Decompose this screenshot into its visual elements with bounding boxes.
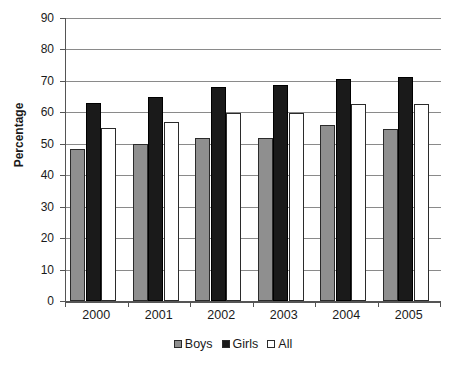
y-axis-tick-label: 50 <box>26 138 54 150</box>
bar-boys-2003 <box>258 138 273 301</box>
legend-swatch-icon <box>174 340 182 348</box>
bar-girls-2002 <box>211 87 226 301</box>
x-axis-tick <box>128 301 129 307</box>
x-axis-tick <box>378 301 379 307</box>
legend-label: Girls <box>233 337 259 351</box>
chart-legend: BoysGirlsAll <box>0 337 466 351</box>
bar-girls-2005 <box>398 77 413 301</box>
y-axis-tick-label: 90 <box>26 12 54 24</box>
y-axis-tick-label: 30 <box>26 201 54 213</box>
x-axis-tick-label: 2003 <box>249 308 319 322</box>
x-axis-tick-label: 2000 <box>61 308 131 322</box>
bar-boys-2004 <box>320 125 335 301</box>
bar-boys-2001 <box>133 144 148 301</box>
bar-boys-2002 <box>195 138 210 302</box>
x-axis-tick-label: 2001 <box>124 308 194 322</box>
bar-girls-2001 <box>148 97 163 301</box>
x-axis-tick <box>65 301 66 307</box>
bar-all-2001 <box>164 122 179 301</box>
x-axis-tick <box>440 301 441 307</box>
legend-item-boys: Boys <box>174 337 213 351</box>
y-axis-tick-label: 80 <box>26 43 54 55</box>
bar-all-2002 <box>226 113 241 301</box>
x-axis-tick-label: 2005 <box>374 308 444 322</box>
bar-all-2003 <box>289 113 304 301</box>
x-axis-tick-label: 2002 <box>186 308 256 322</box>
y-axis-tick-label: 10 <box>26 264 54 276</box>
y-axis-tick-label: 70 <box>26 75 54 87</box>
bar-boys-2000 <box>70 149 85 301</box>
y-axis-tick-labels: 0102030405060708090 <box>22 0 54 370</box>
bars-layer <box>65 18 440 301</box>
y-axis-tick-label: 40 <box>26 169 54 181</box>
legend-swatch-icon <box>267 340 275 348</box>
bar-girls-2000 <box>86 103 101 301</box>
y-axis-tick-label: 60 <box>26 106 54 118</box>
bar-all-2005 <box>414 104 429 301</box>
y-axis-tick-label: 0 <box>26 295 54 307</box>
legend-item-girls: Girls <box>222 337 259 351</box>
bar-chart: Percentage 0102030405060708090 200020012… <box>0 0 466 370</box>
legend-swatch-icon <box>222 340 230 348</box>
bar-girls-2003 <box>273 85 288 301</box>
y-axis-tick-label: 20 <box>26 232 54 244</box>
x-axis-tick <box>253 301 254 307</box>
x-axis-tick-label: 2004 <box>311 308 381 322</box>
bar-boys-2005 <box>383 129 398 301</box>
legend-item-all: All <box>267 337 292 351</box>
x-axis-tick <box>315 301 316 307</box>
x-axis-tick <box>190 301 191 307</box>
bar-girls-2004 <box>336 79 351 301</box>
bar-all-2004 <box>351 104 366 301</box>
legend-label: All <box>278 337 292 351</box>
legend-label: Boys <box>185 337 213 351</box>
bar-all-2000 <box>101 128 116 301</box>
